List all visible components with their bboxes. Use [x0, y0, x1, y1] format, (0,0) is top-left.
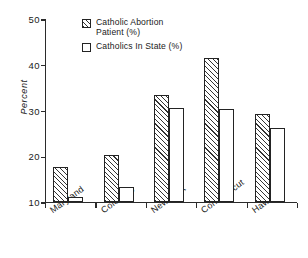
y-tick	[41, 111, 46, 112]
legend-item: Catholic Abortion Patient (%)	[82, 18, 182, 37]
bar	[219, 109, 234, 201]
bar	[68, 197, 83, 202]
y-tick	[41, 65, 46, 66]
y-tick-label: 20	[16, 152, 40, 162]
bar	[119, 187, 134, 202]
legend-label: Catholic Abortion Patient (%)	[96, 18, 164, 37]
bar	[154, 95, 169, 201]
chart-legend: Catholic Abortion Patient (%) Catholics …	[82, 18, 182, 57]
legend-label: Catholics In State (%)	[96, 42, 182, 52]
y-tick-label: 30	[16, 107, 40, 117]
bar	[270, 128, 285, 202]
bar	[169, 108, 184, 201]
bar	[104, 155, 119, 202]
x-tick	[196, 203, 197, 208]
x-tick	[146, 203, 147, 208]
legend-swatch-plain-icon	[82, 43, 91, 52]
x-tick	[95, 203, 96, 208]
y-tick-label: 50	[16, 15, 40, 25]
bar	[53, 167, 68, 202]
bar-chart: Percent 10 20 30 40 50 MarylandColoradoN…	[0, 0, 308, 258]
bar	[204, 58, 219, 201]
bar	[255, 114, 270, 201]
y-tick-label: 40	[16, 61, 40, 71]
y-tick	[41, 19, 46, 20]
x-tick	[45, 203, 46, 208]
y-tick-label: 10	[16, 198, 40, 208]
x-tick	[297, 203, 298, 208]
x-tick	[247, 203, 248, 208]
legend-swatch-hatched-icon	[82, 19, 91, 28]
y-tick	[41, 157, 46, 158]
legend-item: Catholics In State (%)	[82, 42, 182, 52]
